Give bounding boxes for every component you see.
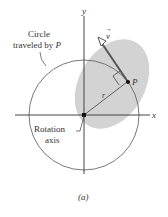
circle-label-line1: Circle bbox=[28, 29, 50, 39]
rotation-axis-label-line1: Rotation bbox=[34, 124, 65, 134]
y-axis-label: y bbox=[81, 6, 86, 16]
x-axis-label: x bbox=[151, 110, 156, 120]
point-P bbox=[126, 80, 130, 84]
velocity-label: v bbox=[106, 31, 110, 41]
rotation-axis-label-line2: axis bbox=[45, 135, 60, 145]
circle-leader-line bbox=[40, 52, 46, 66]
point-label: P bbox=[131, 77, 138, 87]
shaded-region bbox=[59, 26, 164, 142]
circle-label-line2: traveled by P bbox=[13, 40, 61, 50]
velocity-arrowhead-icon bbox=[98, 37, 106, 46]
rotation-diagram: y x Circle traveled by P P r → v Rotatio… bbox=[0, 0, 168, 217]
figure-caption: (a) bbox=[78, 192, 89, 202]
